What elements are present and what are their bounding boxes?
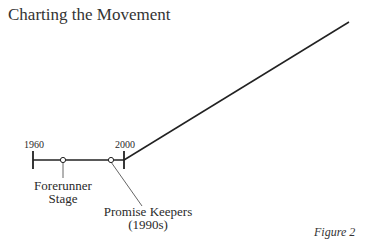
timeline-diagram: 1960 2000 Forerunner Stage Promise Keepe… <box>0 0 367 244</box>
forerunner-label-line2: Stage <box>49 191 78 206</box>
end-year-label: 2000 <box>115 139 135 150</box>
promise-keepers-leader-line <box>111 162 142 206</box>
figure-caption: Figure 2 <box>314 225 355 240</box>
growth-trend-line <box>124 22 349 160</box>
start-year-label: 1960 <box>24 139 44 150</box>
promise-keepers-marker <box>108 157 113 162</box>
forerunner-marker <box>60 157 65 162</box>
promise-keepers-label-line2: (1990s) <box>128 217 168 232</box>
